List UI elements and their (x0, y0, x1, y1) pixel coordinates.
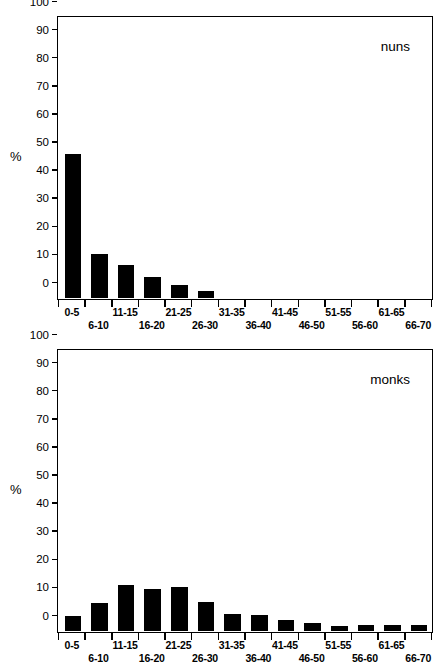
y-axis-tick-label: 20 (36, 551, 49, 567)
y-axis-tick-label: 0 (43, 275, 49, 291)
x-axis-tick-mark (84, 300, 86, 307)
y-axis-tick-mark (52, 446, 57, 448)
bar (411, 625, 428, 631)
y-axis-tick-label: 40 (36, 162, 49, 178)
x-axis-tick-label: 46-50 (299, 652, 325, 664)
y-axis-tick-mark (52, 282, 57, 284)
bar (384, 625, 401, 630)
y-axis-tick-mark (52, 362, 57, 364)
x-axis-tick-label: 61-65 (379, 639, 405, 651)
bar (198, 291, 215, 297)
bar (171, 587, 188, 631)
y-axis-tick-label: 40 (36, 495, 49, 511)
y-axis-tick-label: 60 (36, 439, 49, 455)
x-axis-tick-label: 41-45 (272, 306, 298, 318)
bar (91, 254, 108, 298)
plot-area-nuns: nuns (57, 16, 433, 300)
chart-monks: % monks 0-56-1011-1516-2021-2526-3031-35… (0, 333, 448, 666)
x-axis-tick-mark (138, 300, 140, 307)
bar (144, 589, 161, 630)
y-axis-tick-label: 90 (36, 355, 49, 371)
y-axis-tick-mark (52, 615, 57, 617)
x-axis-tick-label: 0-5 (65, 639, 80, 651)
y-axis-label-nuns: % (10, 149, 22, 164)
y-axis-tick-mark (52, 334, 57, 336)
bar-group-monks (60, 352, 431, 631)
bar-group-nuns (60, 19, 431, 298)
y-axis-tick-mark (52, 474, 57, 476)
y-axis-tick-label: 100 (30, 0, 49, 10)
x-axis-tick-label: 66-70 (405, 652, 431, 664)
x-axis-tick-label: 51-55 (325, 639, 351, 651)
y-axis-tick-mark (52, 85, 57, 87)
y-axis-tick-mark (52, 141, 57, 143)
x-axis-monks: 0-56-1011-1516-2021-2526-3031-3536-4041-… (57, 633, 433, 666)
y-axis-tick-label: 10 (36, 579, 49, 595)
chart-nuns: % nuns 0-56-1011-1516-2021-2526-3031-353… (0, 0, 448, 333)
x-axis-tick-label: 56-60 (352, 652, 378, 664)
y-axis-tick-mark (52, 390, 57, 392)
x-axis-tick-mark (84, 633, 86, 640)
y-axis-tick-mark (52, 559, 57, 561)
y-axis-tick-label: 10 (36, 246, 49, 262)
y-axis-tick-label: 90 (36, 22, 49, 38)
x-axis-tick-label: 21-25 (165, 306, 191, 318)
bar (118, 585, 135, 631)
x-axis-tick-label: 36-40 (245, 319, 271, 331)
y-axis-tick-label: 70 (36, 411, 49, 427)
x-axis-tick-label: 41-45 (272, 639, 298, 651)
bar (118, 265, 135, 297)
bar (331, 626, 348, 630)
y-axis-label-monks: % (10, 482, 22, 497)
bar (224, 614, 241, 631)
bar (144, 277, 161, 298)
x-axis-nuns: 0-56-1011-1516-2021-2526-3031-3536-4041-… (57, 300, 433, 333)
y-axis-tick-mark (52, 169, 57, 171)
y-axis-tick-mark (52, 530, 57, 532)
bar (304, 623, 321, 630)
y-axis-tick-label: 80 (36, 383, 49, 399)
x-axis-tick-label: 56-60 (352, 319, 378, 331)
x-axis-tick-label: 26-30 (192, 652, 218, 664)
bar (171, 285, 188, 298)
x-axis-tick-label: 16-20 (139, 319, 165, 331)
plot-area-monks: monks (57, 349, 433, 633)
bar (91, 603, 108, 631)
x-axis-tick-mark (58, 633, 60, 640)
x-axis-tick-label: 36-40 (245, 652, 271, 664)
y-axis-tick-mark (52, 587, 57, 589)
y-axis-tick-label: 50 (36, 134, 49, 150)
x-axis-tick-label: 51-55 (325, 306, 351, 318)
bar (278, 620, 295, 631)
x-axis-tick-mark (431, 633, 433, 640)
y-axis-tick-mark (52, 254, 57, 256)
y-axis-tick-mark (52, 226, 57, 228)
bar (251, 615, 268, 630)
y-axis-tick-label: 70 (36, 78, 49, 94)
y-axis-tick-label: 30 (36, 523, 49, 539)
x-axis-tick-mark (431, 300, 433, 307)
x-axis-tick-label: 61-65 (379, 306, 405, 318)
x-axis-tick-label: 21-25 (165, 639, 191, 651)
y-axis-tick-label: 30 (36, 190, 49, 206)
x-axis-tick-mark (58, 300, 60, 307)
x-axis-tick-label: 11-15 (112, 639, 137, 651)
x-axis-tick-mark (138, 633, 140, 640)
x-axis-tick-label: 26-30 (192, 319, 218, 331)
bar (65, 616, 82, 630)
x-axis-tick-label: 6-10 (88, 319, 108, 331)
y-axis-tick-label: 60 (36, 106, 49, 122)
y-axis-tick-label: 20 (36, 218, 49, 234)
y-axis-tick-mark (52, 113, 57, 115)
y-axis-tick-mark (52, 502, 57, 504)
bar (198, 602, 215, 630)
x-axis-tick-label: 11-15 (112, 306, 137, 318)
bar (65, 154, 82, 297)
y-axis-tick-mark (52, 418, 57, 420)
x-axis-tick-label: 6-10 (88, 652, 108, 664)
x-axis-tick-label: 46-50 (299, 319, 325, 331)
y-axis-tick-label: 100 (30, 327, 49, 343)
bar (358, 625, 375, 630)
y-axis-tick-label: 80 (36, 50, 49, 66)
y-axis-tick-mark (52, 57, 57, 59)
